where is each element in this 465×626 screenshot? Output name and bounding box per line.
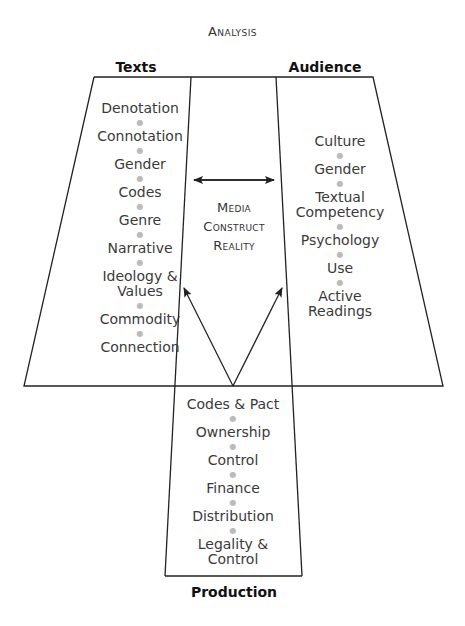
list-item: Gender: [95, 157, 185, 172]
arrow-to-texts: [184, 288, 233, 386]
list-item: Codes & Pact: [178, 397, 288, 412]
heading-texts: Texts: [96, 59, 176, 75]
list-item: Distribution: [178, 509, 288, 524]
list-item: Genre: [95, 213, 185, 228]
list-item: Codes: [95, 185, 185, 200]
list-item: Psychology: [295, 233, 385, 248]
list-item-continued: Control: [178, 552, 288, 567]
list-item-continued: Values: [95, 284, 185, 299]
center-label-line2: Construct: [192, 217, 276, 236]
list-item: Ownership: [178, 425, 288, 440]
list-item-continued: Competency: [295, 205, 385, 220]
heading-audience: Audience: [285, 59, 365, 75]
list-item: Finance: [178, 481, 288, 496]
media-construct-reality-label: Media Construct Reality: [192, 198, 276, 255]
list-item: Culture: [295, 134, 385, 149]
center-label-line1: Media: [192, 198, 276, 217]
list-item-continued: Readings: [295, 304, 385, 319]
list-item: Connection: [95, 340, 185, 355]
production-list: Codes & Pact ● Ownership ● Control ● Fin…: [178, 397, 288, 567]
list-item: Connotation: [95, 129, 185, 144]
list-item: Ideology &: [95, 269, 185, 284]
heading-production: Production: [184, 584, 284, 600]
list-item: Active: [295, 289, 385, 304]
list-item: Control: [178, 453, 288, 468]
audience-list: Culture ● Gender ● Textual Competency ● …: [295, 134, 385, 319]
texts-list: Denotation ● Connotation ● Gender ● Code…: [95, 101, 185, 355]
list-item: Textual: [295, 190, 385, 205]
list-item: Use: [295, 261, 385, 276]
list-item: Commodity: [95, 312, 185, 327]
list-item: Narrative: [95, 241, 185, 256]
arrow-to-audience: [233, 288, 282, 386]
list-item: Gender: [295, 162, 385, 177]
list-item: Legality &: [178, 537, 288, 552]
list-item: Denotation: [95, 101, 185, 116]
center-label-line3: Reality: [192, 236, 276, 255]
